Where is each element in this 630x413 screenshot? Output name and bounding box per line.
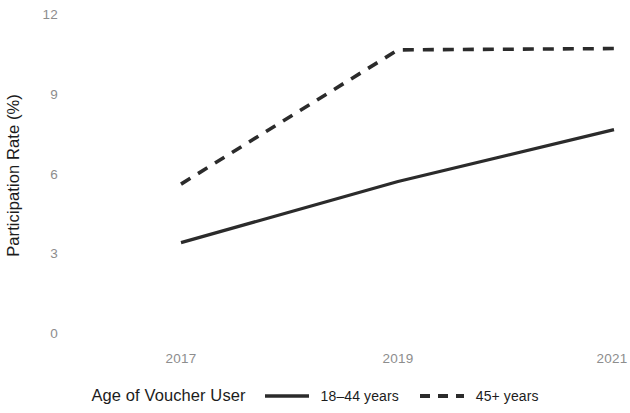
legend-item-45-plus-years: 45+ years — [419, 388, 539, 404]
series-line-18-44-years — [181, 130, 614, 243]
legend: Age of Voucher User 18–44 years 45+ year… — [0, 378, 630, 413]
plot-area — [0, 0, 630, 413]
series-line-45-plus-years — [181, 49, 614, 185]
solid-line-key-icon — [264, 389, 310, 403]
line-chart: Participation Rate (%) 12 9 6 3 0 2017 2… — [0, 0, 630, 413]
legend-item-18-44-years: 18–44 years — [264, 388, 399, 404]
plot-svg — [0, 0, 630, 413]
legend-title: Age of Voucher User — [91, 386, 245, 405]
legend-label-18-44-years: 18–44 years — [321, 388, 399, 404]
dashed-line-key-icon — [419, 389, 465, 403]
legend-label-45-plus-years: 45+ years — [476, 388, 539, 404]
